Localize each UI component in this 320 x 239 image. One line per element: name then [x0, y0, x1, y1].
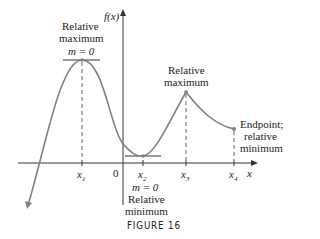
right-max-label-line1: Relative — [168, 64, 205, 76]
dashed-guides — [82, 62, 234, 160]
y-axis-label: f(x) — [104, 10, 119, 22]
endpoint-dot — [232, 127, 236, 131]
curve-arrow-icon — [25, 201, 32, 209]
y-axis-arrow-icon — [120, 9, 126, 16]
origin-label: 0 — [113, 167, 119, 179]
min-label-line2: minimum — [125, 205, 168, 217]
x-axis-arrow-icon — [251, 160, 258, 166]
x-axis-label: x — [247, 167, 252, 179]
min-label-line1: Relative — [128, 193, 165, 205]
right-max-label-line2: maximum — [164, 76, 209, 88]
figure-caption: FIGURE 16 — [127, 219, 181, 232]
tick-label-x3: x3 — [181, 168, 189, 185]
endpoint-label-line2: relative — [244, 130, 277, 142]
tick-label-x4: x4 — [229, 168, 237, 185]
min-slope: m = 0 — [132, 181, 158, 193]
left-max-slope: m = 0 — [68, 45, 94, 57]
tick-label-x1: x1 — [77, 168, 85, 185]
endpoint-label-line3: minimum — [240, 142, 283, 154]
endpoint-label-line1: Endpoint; — [240, 118, 283, 130]
left-max-label-line2: maximum — [59, 32, 104, 44]
left-max-label-line1: Relative — [62, 20, 99, 32]
